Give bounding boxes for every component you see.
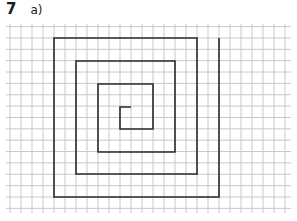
grid-paper — [6, 24, 291, 213]
square-spiral-diagram — [0, 0, 297, 221]
